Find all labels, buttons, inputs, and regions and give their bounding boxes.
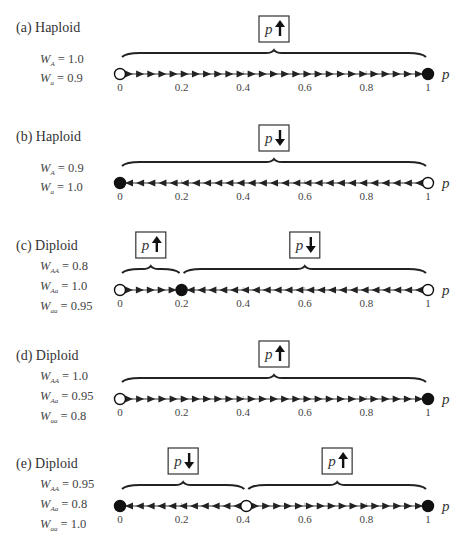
arrow-left-icon bbox=[203, 180, 211, 187]
arrow-right-icon bbox=[259, 71, 267, 78]
arrow-right-icon bbox=[181, 396, 189, 403]
arrow-right-icon bbox=[393, 71, 401, 78]
arrow-right-icon bbox=[306, 503, 314, 510]
tick-label: 0.4 bbox=[236, 297, 250, 309]
tick-label: 0.2 bbox=[175, 513, 189, 525]
arrow-left-icon bbox=[147, 503, 155, 510]
arrow-right-icon bbox=[281, 71, 289, 78]
arrow-left-icon bbox=[371, 287, 379, 294]
arrow-right-icon bbox=[147, 396, 155, 403]
axis-label-p: p bbox=[441, 498, 450, 514]
arrow-left-icon bbox=[263, 287, 271, 294]
arrow-right-icon bbox=[284, 503, 292, 510]
curly-brace bbox=[122, 266, 180, 273]
arrow-right-icon bbox=[214, 71, 222, 78]
curly-brace bbox=[122, 159, 426, 166]
arrow-right-icon bbox=[158, 287, 166, 294]
arrow-right-icon bbox=[192, 71, 200, 78]
arrow-left-icon bbox=[212, 503, 220, 510]
phase-line-diagrams: 00.20.40.60.81pp00.20.40.60.81pp00.20.40… bbox=[0, 0, 467, 550]
tick-label: 0.8 bbox=[360, 513, 374, 525]
arrow-right-icon bbox=[370, 396, 378, 403]
p-increase-box: p bbox=[322, 448, 352, 474]
arrow-right-icon bbox=[262, 503, 270, 510]
svg-text:p: p bbox=[295, 237, 304, 253]
arrow-right-icon bbox=[415, 503, 423, 510]
arrow-right-icon bbox=[326, 396, 334, 403]
unstable-equilibrium-circle bbox=[115, 69, 126, 80]
tick-label: 0 bbox=[117, 406, 123, 418]
arrow-left-icon bbox=[179, 503, 187, 510]
arrow-right-icon bbox=[315, 71, 323, 78]
arrow-right-icon bbox=[136, 287, 144, 294]
arrow-left-icon bbox=[158, 180, 166, 187]
curly-brace bbox=[122, 50, 426, 57]
arrow-right-icon bbox=[393, 503, 401, 510]
axis-label-p: p bbox=[441, 66, 450, 82]
arrow-left-icon bbox=[230, 287, 238, 294]
stable-equilibrium-dot bbox=[176, 285, 187, 296]
arrow-left-icon bbox=[248, 180, 256, 187]
arrow-right-icon bbox=[350, 503, 358, 510]
arrow-left-icon bbox=[201, 503, 209, 510]
arrow-right-icon bbox=[382, 396, 390, 403]
arrow-right-icon bbox=[303, 396, 311, 403]
tick-label: 0.8 bbox=[360, 297, 374, 309]
svg-text:p: p bbox=[264, 346, 273, 362]
arrow-left-icon bbox=[393, 180, 401, 187]
arrow-right-icon bbox=[415, 71, 423, 78]
tick-label: 0.6 bbox=[298, 190, 312, 202]
arrow-right-icon bbox=[337, 396, 345, 403]
arrow-left-icon bbox=[168, 503, 176, 510]
tick-label: 0.2 bbox=[175, 190, 189, 202]
arrow-right-icon bbox=[360, 503, 368, 510]
arrow-right-icon bbox=[292, 396, 300, 403]
arrow-right-icon bbox=[326, 71, 334, 78]
svg-text:p: p bbox=[264, 21, 273, 37]
arrow-left-icon bbox=[295, 287, 303, 294]
tick-label: 0.4 bbox=[236, 190, 250, 202]
arrow-left-icon bbox=[197, 287, 205, 294]
arrow-right-icon bbox=[295, 503, 303, 510]
arrow-left-icon bbox=[382, 287, 390, 294]
svg-text:p: p bbox=[173, 453, 182, 469]
tick-label: 0.2 bbox=[175, 406, 189, 418]
arrow-left-icon bbox=[208, 287, 216, 294]
arrow-right-icon bbox=[315, 396, 323, 403]
arrow-left-icon bbox=[222, 503, 230, 510]
arrow-right-icon bbox=[303, 71, 311, 78]
arrow-right-icon bbox=[259, 396, 267, 403]
tick-label: 0.6 bbox=[298, 513, 312, 525]
tick-label: 0 bbox=[117, 81, 123, 93]
curly-brace bbox=[248, 482, 426, 489]
p-decrease-box: p bbox=[168, 448, 198, 474]
tick-label: 1 bbox=[425, 513, 431, 525]
unstable-equilibrium-circle bbox=[241, 501, 252, 512]
arrow-left-icon bbox=[326, 180, 334, 187]
arrow-left-icon bbox=[214, 180, 222, 187]
arrow-right-icon bbox=[382, 71, 390, 78]
arrow-right-icon bbox=[203, 396, 211, 403]
curly-brace bbox=[122, 482, 244, 489]
stable-equilibrium-dot bbox=[115, 501, 126, 512]
arrow-left-icon bbox=[192, 180, 200, 187]
arrow-right-icon bbox=[415, 396, 423, 403]
p-decrease-box: p bbox=[290, 232, 320, 258]
svg-text:p: p bbox=[264, 130, 273, 146]
unstable-equilibrium-circle bbox=[423, 285, 434, 296]
axis-label-p: p bbox=[441, 391, 450, 407]
arrow-left-icon bbox=[284, 287, 292, 294]
arrow-right-icon bbox=[147, 287, 155, 294]
arrow-right-icon bbox=[192, 396, 200, 403]
arrow-left-icon bbox=[404, 180, 412, 187]
arrow-left-icon bbox=[370, 180, 378, 187]
curly-brace bbox=[184, 266, 426, 273]
arrow-right-icon bbox=[370, 71, 378, 78]
arrow-right-icon bbox=[170, 71, 178, 78]
arrow-right-icon bbox=[382, 503, 390, 510]
arrow-right-icon bbox=[328, 503, 336, 510]
tick-label: 1 bbox=[425, 297, 431, 309]
arrow-left-icon bbox=[136, 503, 144, 510]
phase-line-d: 00.20.40.60.81pp bbox=[115, 341, 451, 418]
arrow-left-icon bbox=[393, 287, 401, 294]
